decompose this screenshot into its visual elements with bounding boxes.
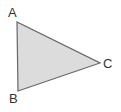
vertex-label-b: B: [9, 91, 18, 106]
triangle-diagram: A B C: [0, 0, 121, 112]
triangle-abc: [17, 22, 100, 91]
vertex-label-a: A: [8, 5, 17, 20]
vertex-label-c: C: [103, 56, 112, 71]
